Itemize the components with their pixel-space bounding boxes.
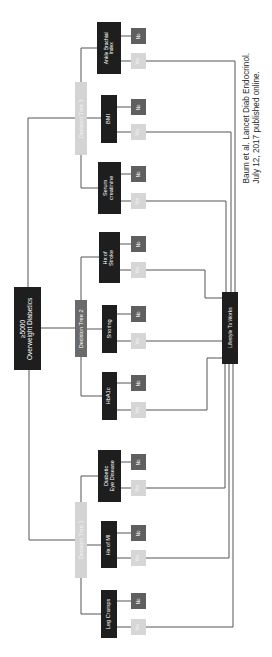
factor-hx-of-mi: Hx of MI	[101, 521, 117, 568]
outcome-node: Lifestyle Tx Works	[222, 292, 238, 364]
no-box: No	[131, 306, 146, 322]
yes-box: Yes	[131, 480, 146, 496]
citation-line-2: July 12, 2017 published online.	[252, 71, 261, 183]
no-box: No	[131, 525, 146, 541]
decision-tree-1-node: Decision Tree 1	[75, 502, 87, 578]
yes-box: Yes	[131, 193, 146, 209]
no-box: No	[131, 454, 146, 470]
root-label: ≥5000 Overweight Diabetics	[21, 297, 35, 359]
decision-tree-3-node: Decision Tree 3	[75, 82, 87, 155]
yes-box: Yes	[131, 333, 146, 349]
outcome-label: Lifestyle Tx Works	[227, 308, 232, 349]
decision-tree-2-node: Decision Tree 2	[75, 300, 87, 357]
factor-leg-cramps: Leg Cramps	[101, 590, 117, 638]
yes-box: Yes	[131, 124, 146, 140]
yes-box: Yes	[131, 402, 146, 418]
yes-box: Yes	[131, 550, 146, 566]
no-box: No	[131, 236, 146, 252]
factor-snoring: Snoring	[102, 305, 117, 353]
no-box: No	[131, 375, 146, 391]
factor-serum-creatinine: Serum creatinine	[98, 162, 121, 214]
citation: Baum et al. Lancet Diab Endocrinol. July…	[238, 34, 266, 202]
no-box: No	[131, 28, 146, 44]
yes-box: Yes	[131, 53, 146, 69]
factor-diabetic-eye-disease: Diabetic Eye Disease	[98, 450, 121, 502]
factor-ankle-brachial-index: Ankle Brachial Index	[97, 22, 121, 74]
factor-bmi: BMI	[101, 95, 117, 143]
no-box: No	[131, 593, 146, 609]
factor-hba1c: HbA1c	[102, 372, 117, 420]
decision-tree-diagram: ≥5000 Overweight Diabetics Decision Tree…	[0, 0, 272, 657]
no-box: No	[131, 166, 146, 182]
no-box: No	[131, 99, 146, 115]
citation-line-1: Baum et al. Lancet Diab Endocrinol.	[242, 53, 251, 184]
root-node: ≥5000 Overweight Diabetics	[14, 287, 41, 370]
factor-hx-of-stroke: Hx of Stroke	[99, 232, 120, 283]
yes-box: Yes	[131, 262, 146, 278]
yes-box: Yes	[131, 619, 146, 635]
